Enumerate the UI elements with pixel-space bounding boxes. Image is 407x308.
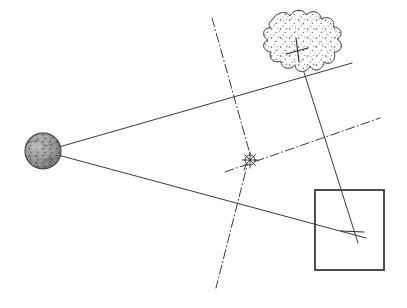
scene-svg [0,0,407,308]
ray-group [58,44,366,243]
blob-to-focus-ray [295,44,358,243]
upper-ray [59,63,352,147]
target-rect [315,190,384,270]
cloud-blob [255,5,350,80]
source-sphere [24,132,64,172]
vertical-dashdot-axis [212,18,250,288]
rect-frame [315,190,384,270]
blob-stipple-fill [255,5,350,80]
lower-ray [58,155,366,238]
diagram-canvas [0,0,407,308]
